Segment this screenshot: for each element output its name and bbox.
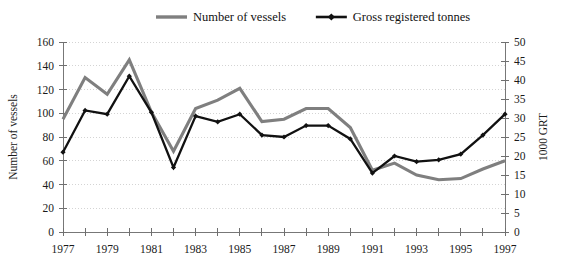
chart-legend: Number of vesselsGross registered tonnes [156,10,470,24]
left-axis-tick-label: 100 [37,107,55,119]
left-axis-tick-label: 20 [43,202,55,214]
left-axis-title: Number of vessels [7,94,19,180]
axis-tick-labels: 0204060801001201401600510152025303540455… [37,36,526,255]
right-axis-tick-label: 5 [514,207,520,219]
legend-label: Gross registered tonnes [353,10,470,24]
left-axis-tick-label: 0 [48,226,54,238]
x-axis-tick-label: 1977 [52,243,75,255]
left-axis-tick-label: 40 [43,179,55,191]
left-axis-tick-label: 120 [37,84,55,96]
x-axis-tick-label: 1991 [361,243,384,255]
x-axis-tick-label: 1979 [96,243,119,255]
right-axis-tick-label: 25 [514,131,526,143]
chart-figure: 0204060801001201401600510152025303540455… [0,0,561,266]
x-axis-tick-label: 1993 [405,243,428,255]
x-axis-tick-label: 1997 [494,243,517,255]
legend-item-1[interactable]: Number of vessels [156,10,286,24]
right-axis-tick-label: 10 [514,188,526,200]
x-axis-tick-label: 1981 [140,243,163,255]
right-axis-tick-label: 45 [514,55,526,67]
right-axis-tick-label: 50 [514,36,526,48]
x-axis-tick-label: 1989 [317,243,340,255]
x-axis-tick-label: 1995 [449,243,472,255]
right-axis-tick-label: 0 [514,226,520,238]
x-axis-tick-label: 1987 [273,243,296,255]
right-axis-tick-label: 30 [514,112,526,124]
left-axis-tick-label: 60 [43,155,55,167]
right-axis-title: 1000 GRT [537,113,549,161]
line-chart: 0204060801001201401600510152025303540455… [0,0,561,266]
left-axis-tick-label: 140 [37,60,55,72]
right-axis-tick-label: 15 [514,169,526,181]
legend-label: Number of vessels [193,10,286,24]
left-axis-tick-label: 160 [37,36,55,48]
gridlines [63,42,505,208]
right-axis-tick-label: 35 [514,93,526,105]
x-axis-tick-label: 1985 [228,243,251,255]
data-series [60,60,507,180]
legend-item-2[interactable]: Gross registered tonnes [316,10,470,24]
left-axis-tick-label: 80 [43,131,55,143]
right-axis-tick-label: 20 [514,150,526,162]
right-axis-tick-label: 40 [514,74,526,86]
series-marker [436,157,441,162]
legend-swatch-marker [328,13,335,20]
x-axis-tick-label: 1983 [184,243,207,255]
series-marker [414,159,419,164]
